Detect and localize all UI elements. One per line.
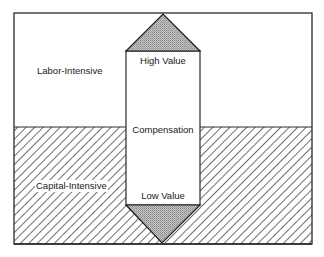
low-value-label: Low Value [141,191,185,201]
capital-intensive-label: Capital-Intensive [35,180,108,192]
high-value-label: High Value [140,56,186,66]
labor-intensive-label: Labor-Intensive [37,66,102,76]
compensation-label: Compensation [132,125,193,135]
